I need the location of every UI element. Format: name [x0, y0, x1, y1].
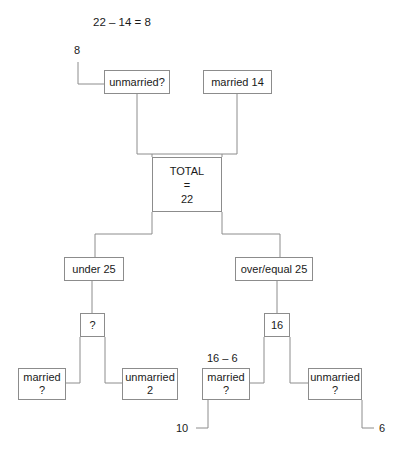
node-sixteen-label: 16 — [271, 319, 283, 332]
label-bottom-right-value: 6 — [379, 422, 385, 434]
node-over-equal-25[interactable]: over/equal 25 — [235, 257, 313, 281]
node-unmarried-left-value: 2 — [147, 384, 153, 397]
connector-sixteen-to-married-right — [250, 337, 264, 383]
connector-top-bracket — [137, 94, 237, 154]
node-under-25-label: under 25 — [72, 263, 115, 276]
node-unmarried-right-value: ? — [332, 384, 338, 397]
label-subtract-equation: 16 – 6 — [207, 352, 238, 364]
node-married-top[interactable]: married 14 — [203, 70, 272, 94]
connector-married-right-to-ten — [196, 400, 208, 428]
node-unmarried-right[interactable]: unmarried ? — [308, 368, 362, 400]
node-married-left-label: married — [23, 371, 60, 384]
node-unmarried-left-label: unmarried — [125, 371, 175, 384]
node-married-left[interactable]: married ? — [18, 368, 66, 400]
connector-question-to-unmarried-left — [105, 337, 122, 383]
node-total-label: TOTAL — [170, 164, 204, 178]
diagram-canvas: 22 – 14 = 8 8 unmarried? married 14 TOTA… — [0, 0, 400, 455]
node-total-value: 22 — [181, 192, 193, 206]
connector-total-to-under25 — [95, 212, 152, 257]
node-sixteen[interactable]: 16 — [264, 313, 290, 337]
node-married-left-value: ? — [39, 384, 45, 397]
node-married-right-value: ? — [223, 384, 229, 397]
node-unmarried-right-label: unmarried — [310, 371, 360, 384]
connector-question-to-married-left — [66, 337, 80, 383]
node-total-equals: = — [184, 178, 190, 192]
node-question-left[interactable]: ? — [80, 313, 105, 337]
node-married-right[interactable]: married ? — [202, 368, 250, 400]
node-married-right-label: married — [207, 371, 244, 384]
node-under-25[interactable]: under 25 — [64, 257, 124, 281]
title-equation: 22 – 14 = 8 — [93, 16, 151, 28]
node-unmarried-left[interactable]: unmarried 2 — [122, 368, 178, 400]
connector-eight-to-unmarried — [78, 62, 104, 84]
node-total[interactable]: TOTAL = 22 — [152, 157, 222, 212]
node-unmarried-top[interactable]: unmarried? — [104, 70, 170, 94]
label-bottom-left-value: 10 — [176, 422, 188, 434]
label-top-left-value: 8 — [74, 44, 80, 56]
node-unmarried-top-label: unmarried? — [109, 76, 165, 89]
node-married-top-label: married 14 — [211, 76, 264, 89]
connector-unmarried-right-to-six — [362, 400, 374, 428]
node-over-equal-25-label: over/equal 25 — [241, 263, 308, 276]
node-question-left-label: ? — [89, 319, 95, 332]
connector-total-to-over25 — [222, 212, 280, 257]
connector-sixteen-to-unmarried-right — [290, 337, 308, 383]
